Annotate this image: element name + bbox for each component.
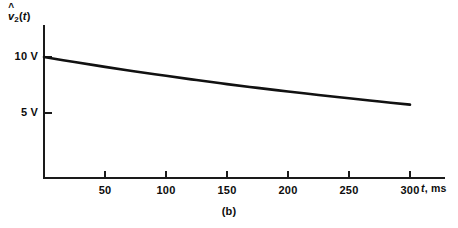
x-axis-unit: , ms (425, 182, 447, 194)
x-tick-label-150: 150 (207, 184, 247, 196)
x-tick-label-200: 200 (268, 184, 308, 196)
y-tick-label-5v: 5 V (2, 106, 38, 118)
y-axis-title: ^v2(t) (8, 10, 31, 24)
y-axis-symbol: ^v (8, 10, 14, 22)
decay-curve (44, 57, 410, 105)
y-tick-label-10v: 10 V (2, 50, 38, 62)
x-tick-label-250: 250 (329, 184, 369, 196)
circumflex-accent-icon: ^ (8, 3, 14, 13)
y-axis-arg-close: ) (27, 10, 31, 22)
x-tick-label-100: 100 (146, 184, 186, 196)
x-tick-label-50: 50 (85, 184, 125, 196)
figure-caption: (b) (0, 205, 458, 217)
x-axis-title: t, ms (421, 182, 447, 194)
figure-panel-b: ^v2(t) 10 V 5 V 50 100 150 200 250 300 t… (0, 0, 458, 228)
